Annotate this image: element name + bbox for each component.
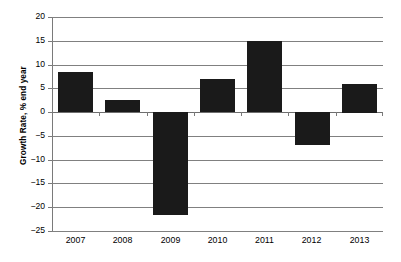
y-axis-tick-label: 10 <box>5 60 45 69</box>
gridline <box>52 207 383 208</box>
y-axis-tick <box>48 112 52 113</box>
gridline <box>52 41 383 42</box>
y-axis-tick <box>48 183 52 184</box>
y-axis-tick <box>48 65 52 66</box>
gridline <box>52 183 383 184</box>
bar[interactable] <box>105 100 140 112</box>
plot-area <box>52 17 383 231</box>
x-axis-tick-label: 2013 <box>336 236 383 246</box>
bar[interactable] <box>295 112 330 145</box>
y-axis-tick-label: 5 <box>5 83 45 92</box>
y-axis-tick <box>48 160 52 161</box>
x-axis-tick-label: 2009 <box>147 236 194 246</box>
bar[interactable] <box>247 41 282 112</box>
bar[interactable] <box>200 79 235 112</box>
x-axis-tick <box>336 112 337 116</box>
gridline <box>52 17 383 18</box>
x-axis-tick-label: 2008 <box>99 236 146 246</box>
bar[interactable] <box>153 112 188 215</box>
x-axis-tick-label: 2012 <box>288 236 335 246</box>
x-axis-tick <box>194 112 195 116</box>
x-axis-tick <box>241 112 242 116</box>
bar[interactable] <box>58 72 93 112</box>
y-axis-tick-label: −25 <box>5 226 45 235</box>
y-axis-tick-label: −20 <box>5 202 45 211</box>
gridline <box>52 65 383 66</box>
y-axis-tick-label: 15 <box>5 36 45 45</box>
y-axis-tick <box>48 88 52 89</box>
x-axis-tick <box>99 112 100 116</box>
x-axis-tick-labels: 2007200820092010201120122013 <box>52 236 383 254</box>
x-axis-tick-label: 2010 <box>194 236 241 246</box>
y-axis-tick-label: 20 <box>5 12 45 21</box>
x-axis-tick <box>52 112 53 116</box>
y-axis-tick-label: 0 <box>5 107 45 116</box>
x-axis-tick <box>382 112 383 116</box>
y-axis-tick-label: −10 <box>5 155 45 164</box>
y-axis-tick-label: −5 <box>5 131 45 140</box>
zero-gridline <box>52 112 383 113</box>
gridline <box>52 160 383 161</box>
y-axis-tick-labels: 20151050−5−10−15−20−25 <box>0 0 45 262</box>
y-axis-tick <box>48 231 52 232</box>
x-axis-tick <box>288 112 289 116</box>
y-axis-tick-label: −15 <box>5 178 45 187</box>
y-axis-title-text: Growth Rate, % end year <box>19 66 28 165</box>
y-axis-tick <box>48 41 52 42</box>
y-axis-tick <box>48 207 52 208</box>
x-axis-tick-label: 2011 <box>241 236 288 246</box>
bar-chart: Growth Rate, % end year 20151050−5−10−15… <box>0 0 401 262</box>
y-axis-tick <box>48 136 52 137</box>
gridline <box>52 231 383 232</box>
bar[interactable] <box>342 84 377 113</box>
x-axis-tick-label: 2007 <box>52 236 99 246</box>
y-axis-title: Growth Rate, % end year <box>14 0 32 231</box>
x-axis-tick <box>147 112 148 116</box>
y-axis-tick <box>48 17 52 18</box>
gridline <box>52 136 383 137</box>
